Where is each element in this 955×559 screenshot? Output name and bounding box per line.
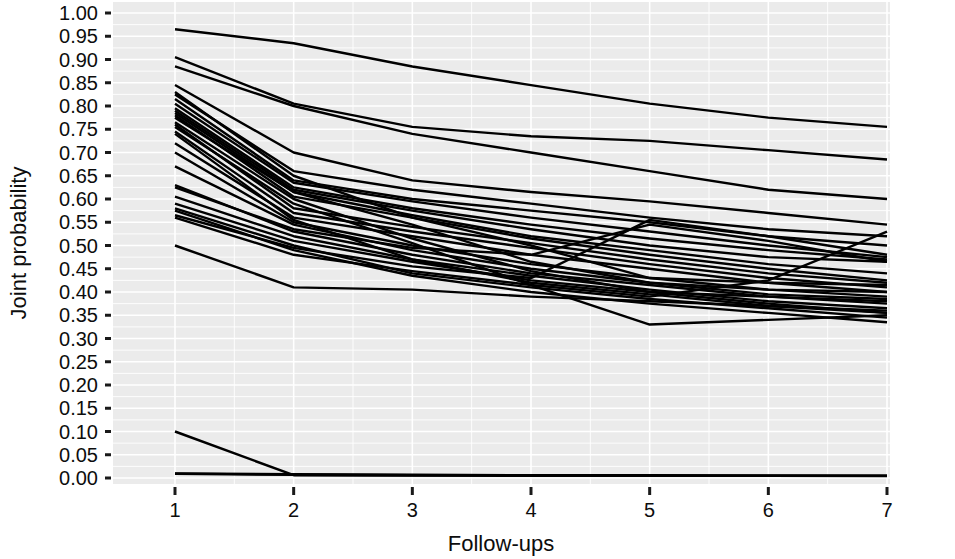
y-axis-tick-label: 0.75 (59, 118, 98, 140)
y-axis-tick-label: 0.50 (59, 235, 98, 257)
y-axis-tick-label: 0.95 (59, 25, 98, 47)
x-axis-tick-label: 6 (763, 499, 774, 521)
y-axis-title: Joint probability (6, 167, 31, 320)
y-axis-tick-label: 0.60 (59, 188, 98, 210)
x-axis-tick-label: 4 (525, 499, 536, 521)
x-axis-title: Follow-ups (448, 531, 554, 556)
chart-figure: 0.000.050.100.150.200.250.300.350.400.45… (0, 0, 955, 559)
y-axis-tick-label: 0.25 (59, 351, 98, 373)
y-axis-tick-label: 0.00 (59, 467, 98, 489)
y-axis-tick-label: 0.85 (59, 72, 98, 94)
y-axis-tick-label: 0.20 (59, 374, 98, 396)
y-axis-tick-label: 0.55 (59, 211, 98, 233)
x-axis-tick-label: 5 (644, 499, 655, 521)
spaghetti-line-chart: 0.000.050.100.150.200.250.300.350.400.45… (0, 0, 955, 559)
y-axis-tick-label: 0.80 (59, 95, 98, 117)
y-axis-tick-label: 0.40 (59, 281, 98, 303)
y-axis-tick-label: 0.45 (59, 258, 98, 280)
x-axis-tick-label: 1 (169, 499, 180, 521)
x-axis-tick-label: 3 (407, 499, 418, 521)
y-axis-tick-label: 0.35 (59, 304, 98, 326)
x-axis-tick-label: 7 (881, 499, 892, 521)
y-axis-tick-label: 0.10 (59, 421, 98, 443)
x-axis-ticks: 1234567 (169, 487, 892, 521)
y-axis-tick-label: 0.30 (59, 328, 98, 350)
y-axis-tick-label: 1.00 (59, 2, 98, 24)
y-axis-tick-label: 0.90 (59, 49, 98, 71)
y-axis-tick-label: 0.05 (59, 444, 98, 466)
y-axis-tick-label: 0.15 (59, 397, 98, 419)
x-axis-tick-label: 2 (288, 499, 299, 521)
y-axis-tick-label: 0.65 (59, 165, 98, 187)
y-axis-tick-label: 0.70 (59, 142, 98, 164)
y-axis-ticks: 0.000.050.100.150.200.250.300.350.400.45… (59, 2, 111, 489)
